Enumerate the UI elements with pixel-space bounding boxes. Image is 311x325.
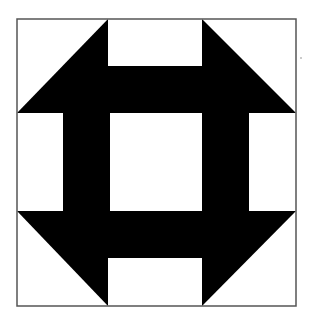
right-bar <box>202 113 249 211</box>
stray-speck <box>300 57 302 59</box>
top-bar <box>108 66 202 113</box>
left-bar <box>63 113 110 211</box>
churn-dash-quilt-block <box>0 0 311 325</box>
center-square <box>110 113 202 211</box>
bottom-bar <box>108 211 202 258</box>
